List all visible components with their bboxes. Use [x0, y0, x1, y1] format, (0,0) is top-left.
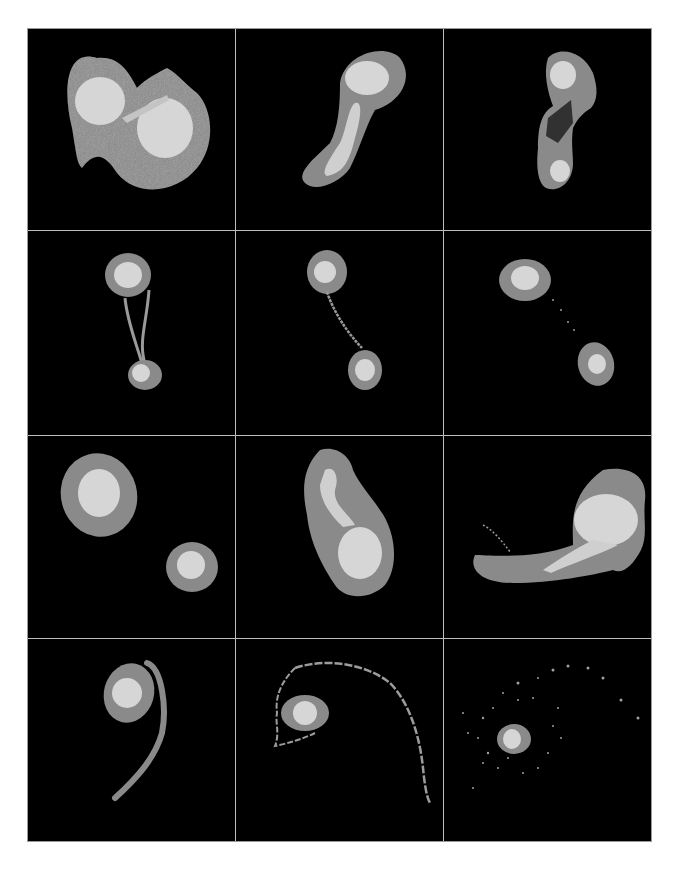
bridge — [327, 292, 362, 348]
core-1 — [511, 266, 539, 290]
core-1 — [78, 469, 120, 517]
debris-trail — [483, 525, 511, 553]
core-1 — [550, 61, 576, 89]
panel-5-image — [235, 230, 443, 435]
core-2 — [588, 354, 606, 374]
core — [574, 494, 638, 546]
core — [503, 729, 521, 749]
row-divider-2 — [27, 435, 652, 436]
panel-7-image — [27, 435, 235, 638]
panel-4 — [27, 230, 235, 435]
core-2 — [177, 551, 205, 579]
panel-6-image — [443, 230, 652, 435]
panel-10-image — [27, 638, 235, 842]
core-2 — [550, 160, 570, 182]
core-1 — [114, 262, 142, 288]
panel-11-image — [235, 638, 443, 842]
panel-12 — [443, 638, 652, 842]
core-1 — [314, 261, 336, 283]
panel-1 — [27, 28, 235, 230]
panel-12-image — [443, 638, 652, 842]
bridge — [125, 290, 149, 360]
panel-2-image — [235, 28, 443, 230]
core-1 — [75, 77, 125, 125]
core — [112, 678, 142, 708]
debris-halo — [462, 665, 640, 790]
panel-7 — [27, 435, 235, 638]
core-2 — [338, 527, 382, 579]
row-divider-1 — [27, 230, 652, 231]
core-1 — [345, 61, 389, 95]
panel-4-image — [27, 230, 235, 435]
debris — [552, 299, 575, 331]
row-divider-3 — [27, 638, 652, 639]
panel-1-image — [27, 28, 235, 230]
panel-6 — [443, 230, 652, 435]
panel-5 — [235, 230, 443, 435]
panel-2 — [235, 28, 443, 230]
panel-8 — [235, 435, 443, 638]
panel-9 — [443, 435, 652, 638]
core — [293, 701, 317, 725]
panel-3 — [443, 28, 652, 230]
core-2 — [132, 364, 150, 382]
arc-shell — [295, 663, 430, 803]
core-2 — [355, 359, 375, 381]
panel-8-image — [235, 435, 443, 638]
panel-11 — [235, 638, 443, 842]
panel-9-image — [443, 435, 652, 638]
panel-10 — [27, 638, 235, 842]
panel-3-image — [443, 28, 652, 230]
